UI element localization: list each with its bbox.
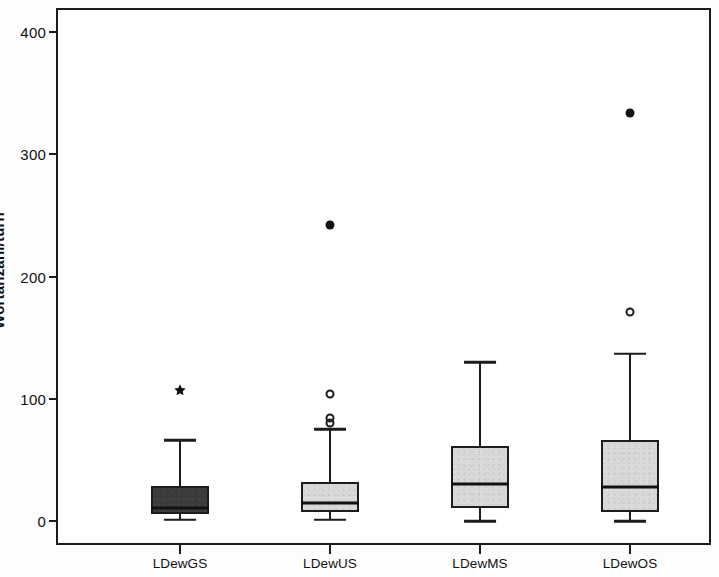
box-LDewGS	[151, 486, 209, 514]
x-tick-mark-LDewGS	[179, 545, 181, 554]
y-tick-mark-400	[49, 31, 57, 33]
extreme-dot-LDewUS-0	[326, 221, 335, 230]
extreme-dot-LDewOS-0	[626, 108, 635, 117]
box-LDewOS	[601, 440, 659, 512]
box-LDewUS	[301, 482, 359, 513]
median-line-LDewGS	[151, 506, 209, 509]
whisker-upper-LDewGS	[179, 440, 181, 485]
outlier-circle-LDewOS-0	[626, 307, 635, 316]
y-tick-label-100: 100	[0, 390, 46, 407]
whisker-upper-LDewUS	[329, 429, 331, 482]
y-tick-label-400: 400	[0, 24, 46, 41]
whisker-cap-lower-LDewMS	[464, 520, 496, 523]
whisker-cap-upper-LDewGS	[164, 439, 196, 442]
whisker-cap-upper-LDewUS	[314, 428, 346, 431]
whisker-cap-lower-LDewUS	[314, 519, 346, 522]
box-LDewMS	[451, 446, 509, 507]
whisker-cap-upper-LDewMS	[464, 361, 496, 364]
y-tick-label-0: 0	[0, 513, 46, 530]
whisker-cap-upper-LDewOS	[614, 352, 646, 355]
y-tick-mark-300	[49, 153, 57, 155]
chart-page: Wortanzahl/turn 0100200300400 LDewGSLDew…	[0, 0, 719, 577]
x-tick-mark-LDewOS	[629, 545, 631, 554]
x-tick-label-LDewUS: LDewUS	[303, 556, 357, 571]
x-tick-label-LDewOS: LDewOS	[603, 556, 658, 571]
y-tick-mark-0	[49, 520, 57, 522]
y-tick-mark-200	[49, 276, 57, 278]
whisker-upper-LDewOS	[629, 354, 631, 441]
x-tick-mark-LDewMS	[479, 545, 481, 554]
median-line-LDewMS	[451, 483, 509, 486]
x-tick-label-LDewGS: LDewGS	[153, 556, 208, 571]
whisker-upper-LDewMS	[479, 362, 481, 446]
y-tick-mark-100	[49, 398, 57, 400]
median-line-LDewUS	[301, 501, 359, 504]
extreme-star-LDewGS-0	[174, 384, 187, 397]
outlier-circle-LDewUS-0	[326, 389, 335, 398]
x-tick-mark-LDewUS	[329, 545, 331, 554]
outlier-circle-LDewUS-2	[326, 419, 335, 428]
whisker-cap-lower-LDewOS	[614, 520, 646, 523]
x-tick-label-LDewMS: LDewMS	[452, 556, 507, 571]
y-tick-label-200: 200	[0, 268, 46, 285]
median-line-LDewOS	[601, 485, 659, 488]
y-tick-label-300: 300	[0, 146, 46, 163]
whisker-cap-lower-LDewGS	[164, 519, 196, 522]
